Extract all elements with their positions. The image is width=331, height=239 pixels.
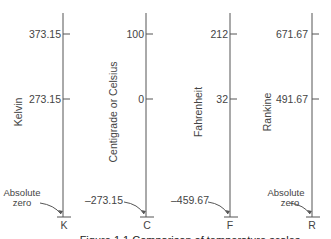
fahrenheit-lower-value: 32 [216,93,228,105]
kelvin-symbol: K [60,219,67,231]
rankine-upper-value: 671.67 [276,28,308,40]
kelvin-upper-value: 373.15 [29,28,61,40]
rankine-bottom-label-2: zero [281,197,299,208]
celsius-symbol: C [143,219,151,231]
figure-caption: Figure 1.1 Comparison of temperature sca… [80,234,301,239]
rankine-symbol: R [308,219,316,231]
arrow-icon [208,202,228,214]
arrow-icon [40,203,61,214]
fahrenheit-upper-value: 212 [210,28,228,40]
celsius-bottom-label: –273.15 [85,194,123,206]
celsius-label: Centigrade or Celsius [107,62,119,163]
kelvin-lower-value: 273.15 [29,93,61,105]
fahrenheit-label: Fahrenheit [192,87,204,137]
fahrenheit-bottom-label: –459.67 [171,194,209,206]
temperature-scales-diagram: 373.15 273.15 Kelvin Absolute zero K 100… [0,0,331,239]
arrow-icon [124,202,144,214]
rankine-lower-value: 491.67 [276,93,308,105]
kelvin-bottom-label-2: zero [13,197,31,208]
fahrenheit-symbol: F [227,219,233,231]
kelvin-label: Kelvin [12,98,24,127]
celsius-upper-value: 100 [126,28,144,40]
rankine-label: Rankine [261,93,273,132]
celsius-lower-value: 0 [138,93,144,105]
